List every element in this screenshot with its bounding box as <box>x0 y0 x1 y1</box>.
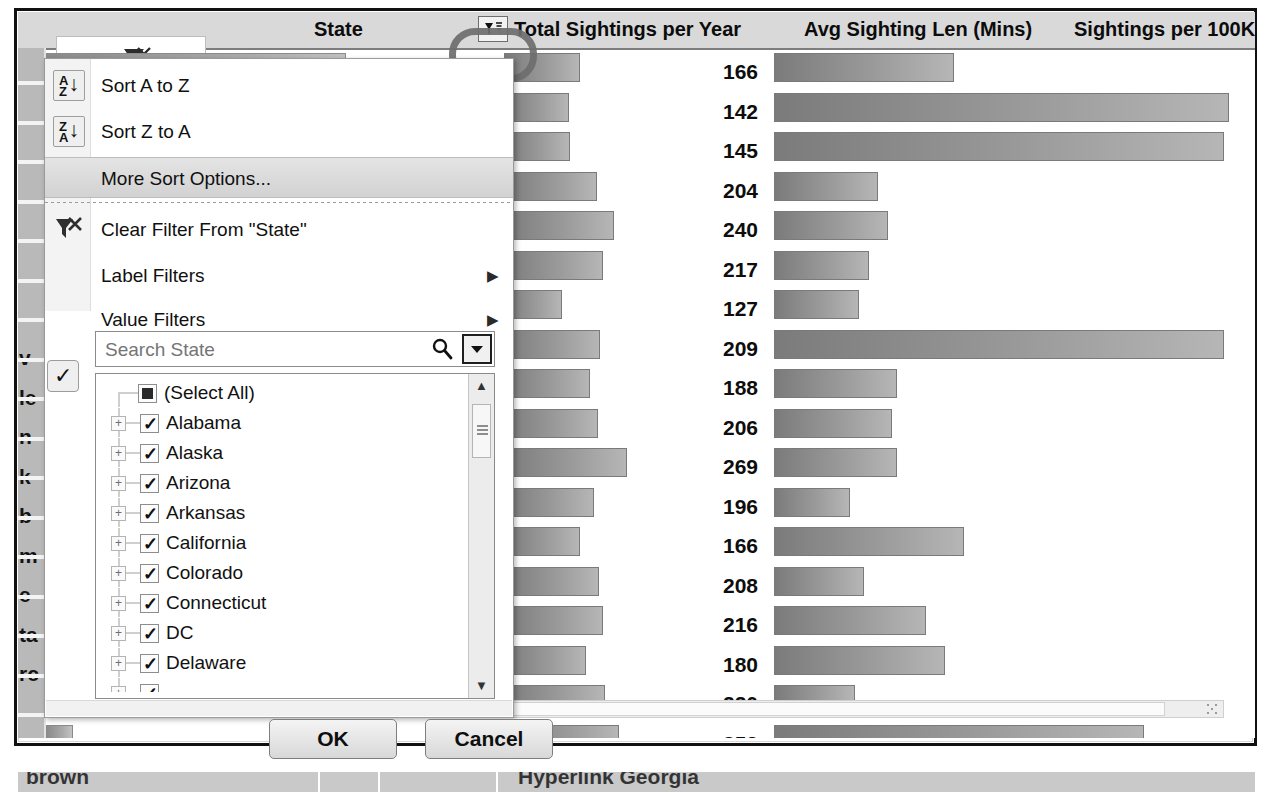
expand-icon[interactable]: + <box>111 536 126 551</box>
data-bar <box>774 93 1229 122</box>
expand-icon[interactable]: + <box>111 476 126 491</box>
expand-icon[interactable]: + <box>111 626 126 641</box>
menu-bottom-scroll-strip[interactable] <box>46 700 512 716</box>
cell-sightings-per-100k[interactable] <box>774 132 1255 161</box>
search-input[interactable] <box>103 336 427 364</box>
data-bar <box>774 488 850 517</box>
cell-sightings-per-100k[interactable] <box>774 448 1255 477</box>
list-item[interactable]: +✓Colorado <box>96 558 468 587</box>
checkbox[interactable] <box>138 384 157 403</box>
cell-avg-sighting-len[interactable]: 145 <box>504 132 766 161</box>
list-item[interactable]: +✓Delaware <box>96 648 468 677</box>
cell-avg-sighting-len[interactable]: 209 <box>504 330 766 359</box>
list-item[interactable]: (Select All) <box>96 378 468 407</box>
cell-avg-sighting-len[interactable]: 216 <box>504 606 766 635</box>
checkbox[interactable]: ✓ <box>140 534 159 553</box>
list-item-label: Arkansas <box>166 498 245 527</box>
column-header-sightings-per-100k[interactable]: Sightings per 100K <box>1074 12 1255 48</box>
list-vertical-scrollbar[interactable]: ▲ ▼ <box>468 374 494 698</box>
menu-item-label-filters[interactable]: Label Filters ▶ <box>45 255 513 296</box>
cell-avg-sighting-len[interactable]: 269 <box>504 448 766 477</box>
column-header-state[interactable]: State <box>314 12 464 48</box>
data-bar <box>504 606 603 635</box>
checkmark-toggle-button[interactable]: ✓ <box>47 360 79 392</box>
cell-value: 216 <box>648 609 758 641</box>
scroll-up-icon[interactable]: ▲ <box>469 374 494 398</box>
cell-sightings-per-100k[interactable] <box>774 290 1255 319</box>
table-row[interactable]: 3.4252 <box>46 720 1255 739</box>
list-item[interactable]: +✓Arkansas <box>96 498 468 527</box>
column-header-avg-sighting-len[interactable]: Avg Sighting Len (Mins) <box>804 12 1066 48</box>
checkbox[interactable]: ✓ <box>140 504 159 523</box>
cancel-button[interactable]: Cancel <box>425 719 553 759</box>
column-header-total-sightings[interactable]: Total Sightings per Year <box>514 12 792 48</box>
cell-sightings-per-100k[interactable] <box>774 93 1255 122</box>
expand-icon[interactable]: + <box>111 596 126 611</box>
checkbox[interactable]: ✓ <box>140 654 159 673</box>
expand-icon[interactable]: + <box>111 686 126 692</box>
checkbox[interactable]: ✓ <box>140 594 159 613</box>
data-bar <box>504 448 627 477</box>
cell-sightings-per-100k[interactable] <box>774 251 1255 280</box>
checkbox[interactable]: ✓ <box>140 684 159 692</box>
cell-sightings-per-100k[interactable] <box>774 527 1255 556</box>
cell-avg-sighting-len[interactable]: 206 <box>504 409 766 438</box>
cell-sightings-per-100k[interactable] <box>774 567 1255 596</box>
cell-sightings-per-100k[interactable] <box>774 330 1255 359</box>
cell-sightings-per-100k[interactable] <box>774 369 1255 398</box>
checkbox[interactable]: ✓ <box>140 624 159 643</box>
list-item[interactable]: +✓Alaska <box>96 438 468 467</box>
cell-sightings-per-100k[interactable] <box>774 211 1255 240</box>
cell-avg-sighting-len[interactable]: 217 <box>504 251 766 280</box>
data-bar <box>774 725 1144 739</box>
cell-sightings-per-100k[interactable] <box>774 725 1255 739</box>
cell-sightings-per-100k[interactable] <box>774 606 1255 635</box>
expand-icon[interactable]: + <box>111 416 126 431</box>
expand-icon[interactable]: + <box>111 446 126 461</box>
checkbox[interactable]: ✓ <box>140 414 159 433</box>
cell-avg-sighting-len[interactable]: 166 <box>504 53 766 82</box>
scroll-down-icon[interactable]: ▼ <box>469 674 494 698</box>
resize-grip-icon[interactable] <box>1207 704 1217 714</box>
list-item[interactable]: +✓Alabama <box>96 408 468 437</box>
bottom-clipped-row: brown Hyperlink Georgia <box>18 772 1255 792</box>
cell-avg-sighting-len[interactable]: 166 <box>504 527 766 556</box>
cell-avg-sighting-len[interactable]: 180 <box>504 646 766 675</box>
checkmark-icon: ✓ <box>143 530 158 559</box>
list-item[interactable]: +✓DC <box>96 618 468 647</box>
cell-sightings-per-100k[interactable] <box>774 172 1255 201</box>
expand-icon[interactable]: + <box>111 566 126 581</box>
list-item[interactable]: +✓Arizona <box>96 468 468 497</box>
menu-item-sort-z-to-a[interactable]: ZA↓ Sort Z to A <box>45 111 513 152</box>
checkbox[interactable]: ✓ <box>140 564 159 583</box>
menu-item-sort-a-to-z[interactable]: AZ↓ Sort A to Z <box>45 65 513 106</box>
checkmark-icon: ✓ <box>143 650 158 679</box>
cell-total-sightings[interactable]: 3.4 <box>46 725 482 739</box>
search-dropdown-button[interactable] <box>462 334 492 364</box>
state-checkbox-list[interactable]: ▲ ▼ (Select All)+✓Alabama+✓Alaska+✓Arizo… <box>95 373 495 699</box>
cell-avg-sighting-len[interactable]: 204 <box>504 172 766 201</box>
list-item[interactable]: +✓Connecticut <box>96 588 468 617</box>
checkmark-icon: ✓ <box>143 500 158 529</box>
menu-item-clear-filter[interactable]: Clear Filter From "State" <box>45 209 513 250</box>
cell-avg-sighting-len[interactable]: 188 <box>504 369 766 398</box>
cell-sightings-per-100k[interactable] <box>774 488 1255 517</box>
cell-avg-sighting-len[interactable]: 208 <box>504 567 766 596</box>
cell-sightings-per-100k[interactable] <box>774 646 1255 675</box>
cell-avg-sighting-len[interactable]: 142 <box>504 93 766 122</box>
menu-item-more-sort-options[interactable]: More Sort Options... <box>45 157 513 198</box>
list-item[interactable]: +✓California <box>96 528 468 557</box>
cell-sightings-per-100k[interactable] <box>774 53 1255 82</box>
list-scrollbar-thumb[interactable] <box>472 404 491 458</box>
ok-button[interactable]: OK <box>269 719 397 759</box>
checkbox[interactable]: ✓ <box>140 444 159 463</box>
list-item-partial[interactable]: +✓ <box>96 678 468 692</box>
search-field-wrapper[interactable] <box>95 331 495 367</box>
cell-avg-sighting-len[interactable]: 196 <box>504 488 766 517</box>
expand-icon[interactable]: + <box>111 656 126 671</box>
cell-avg-sighting-len[interactable]: 240 <box>504 211 766 240</box>
checkbox[interactable]: ✓ <box>140 474 159 493</box>
cell-avg-sighting-len[interactable]: 127 <box>504 290 766 319</box>
expand-icon[interactable]: + <box>111 506 126 521</box>
cell-sightings-per-100k[interactable] <box>774 409 1255 438</box>
